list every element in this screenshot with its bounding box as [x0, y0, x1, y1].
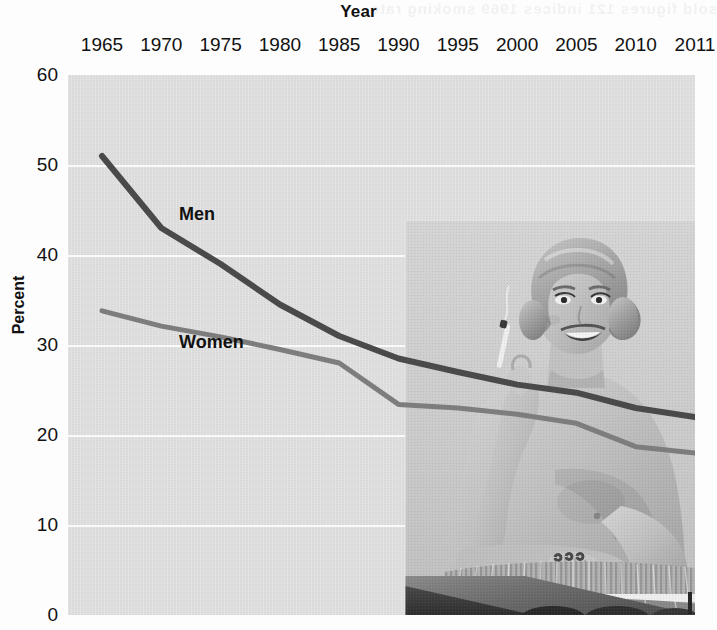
x-tick-1975: 1975 [199, 34, 241, 56]
y-tick-0: 0 [47, 604, 58, 626]
plot-area: Men Women [68, 75, 695, 615]
y-tick-60: 60 [37, 64, 58, 86]
x-tick-2000: 2000 [496, 34, 538, 56]
x-tick-1985: 1985 [318, 34, 360, 56]
series-lines [68, 75, 695, 615]
line-men [102, 156, 695, 417]
x-tick-1970: 1970 [140, 34, 182, 56]
series-label-men: Men [179, 204, 215, 225]
y-tick-20: 20 [37, 424, 58, 446]
y-tick-40: 40 [37, 244, 58, 266]
x-tick-1990: 1990 [377, 34, 419, 56]
x-axis-tick-labels: 1965197019751980198519901995200020052010… [0, 34, 717, 60]
series-label-women: Women [179, 332, 244, 353]
x-tick-1965: 1965 [81, 34, 123, 56]
y-tick-30: 30 [37, 334, 58, 356]
y-tick-10: 10 [37, 514, 58, 536]
x-tick-2011: 2011 [675, 34, 716, 56]
y-axis-title: Percent [10, 260, 28, 350]
x-tick-1995: 1995 [437, 34, 479, 56]
x-tick-2010: 2010 [615, 34, 657, 56]
x-axis-title: Year [0, 2, 717, 22]
x-tick-1980: 1980 [259, 34, 301, 56]
x-tick-2005: 2005 [555, 34, 597, 56]
y-tick-50: 50 [37, 154, 58, 176]
